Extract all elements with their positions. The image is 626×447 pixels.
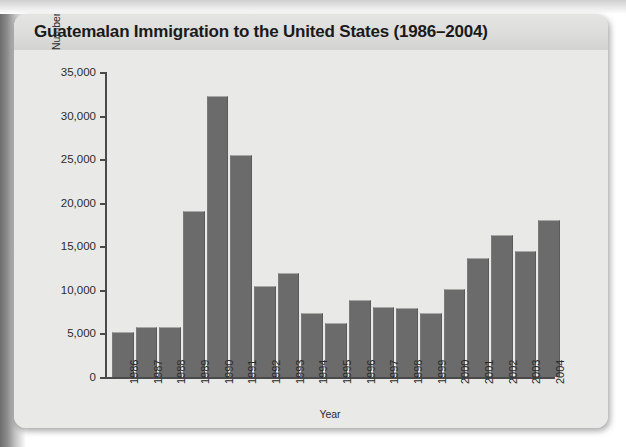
x-axis-title: Year [105,408,555,420]
chart-card: Guatemalan Immigration to the United Sta… [14,14,608,428]
x-axis-tick-label: 1991 [246,360,258,384]
y-axis-title: Number of People [50,14,62,50]
x-axis-tick-label: 1996 [365,360,377,384]
page-title: Guatemalan Immigration to the United Sta… [34,22,488,42]
x-axis-tick-label: 1989 [199,360,211,384]
x-axis-tick-label: 1990 [223,360,235,384]
x-axis-tick-label: 1997 [388,360,400,384]
x-axis-tick-label: 1994 [317,360,329,384]
x-axis-tick-label: 2000 [459,360,471,384]
y-axis-tick-label: 35,000 [61,66,96,78]
bar [230,155,252,377]
chart-title-band: Guatemalan Immigration to the United Sta… [14,14,608,50]
x-axis-tick-label: 2004 [554,360,566,384]
x-axis-tick-label: 1999 [436,360,448,384]
x-axis-tick-label: 1998 [412,360,424,384]
y-axis-tick-label: 20,000 [61,197,96,209]
x-axis-tick-label: 1986 [128,360,140,384]
x-axis-tick-label: 1988 [175,360,187,384]
page-top-vignette [0,0,626,14]
y-axis-tick-label: 25,000 [61,153,96,165]
chart-axes: 05,00010,00015,00020,00025,00030,00035,0… [105,72,555,379]
y-axis-tick-label: 5,000 [67,327,96,339]
y-axis-tick-label: 30,000 [61,110,96,122]
bar [207,96,229,377]
bar [515,251,537,377]
y-axis-tick [100,377,105,379]
x-axis-tick-label: 1987 [152,360,164,384]
x-axis-tick-label: 2003 [530,360,542,384]
bar [491,235,513,377]
bar [538,220,560,377]
x-axis-tick-label: 1992 [270,360,282,384]
bar [183,211,205,377]
x-axis-tick-label: 1993 [294,360,306,384]
chart-plot-area: Number of People 05,00010,00015,00020,00… [14,50,608,428]
y-axis-tick-label: 15,000 [61,240,96,252]
y-axis-tick-label: 10,000 [61,284,96,296]
y-axis-tick-label: 0 [90,371,96,383]
x-axis-tick-label: 2002 [507,360,519,384]
x-axis-tick-label: 1995 [341,360,353,384]
bar-series [105,72,555,377]
x-axis-tick-label: 2001 [483,360,495,384]
